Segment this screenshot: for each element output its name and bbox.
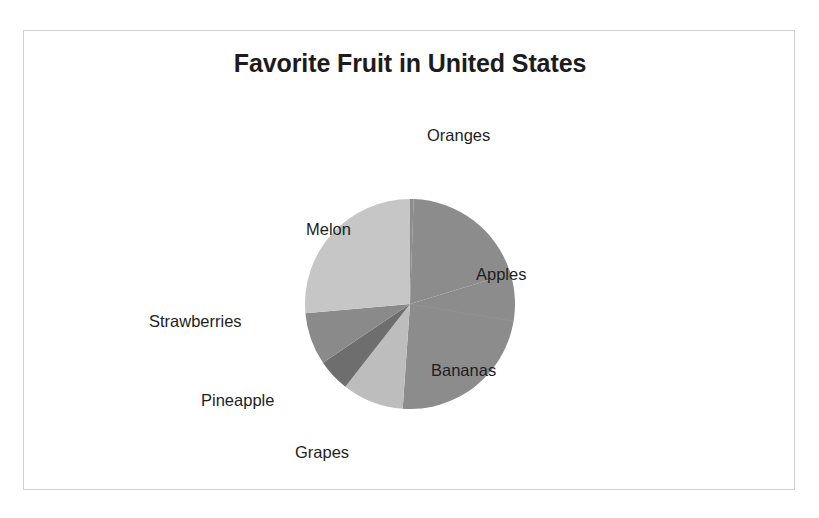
pie-label-apples: Apples [476, 265, 526, 284]
pie-label-melon: Melon [306, 220, 351, 239]
pie-chart-svg [24, 31, 796, 489]
pie-label-bananas: Bananas [431, 361, 496, 380]
chart-frame: Favorite Fruit in United States [23, 30, 795, 490]
pie-label-grapes: Grapes [295, 443, 349, 462]
pie-label-strawberries: Strawberries [149, 312, 242, 331]
pie-label-pineapple: Pineapple [201, 391, 274, 410]
pie-slice-melon[interactable] [305, 199, 410, 313]
pie-label-oranges: Oranges [427, 126, 490, 145]
pie-chart-plot-area: Oranges Apples Bananas Grapes Pineapple … [24, 31, 796, 489]
